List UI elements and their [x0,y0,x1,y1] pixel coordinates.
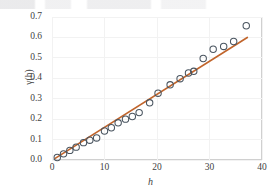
data-point [243,23,249,29]
data-point [200,55,206,61]
gridlines [52,17,262,160]
semivariogram-chart: 0.00.10.20.30.40.50.60.7 010203040 γ(h) … [0,0,275,195]
data-point [115,120,121,126]
x-tick-label-3: 30 [195,163,225,173]
y-tick-label-6: 0.6 [8,32,42,42]
data-point [108,125,114,131]
x-tick-label-1: 10 [90,163,120,173]
data-point [146,100,152,106]
trendline [55,37,247,158]
data-point [93,135,99,141]
x-axis-title: h [0,176,275,187]
y-tick-label-2: 0.2 [8,114,42,124]
data-point [220,43,226,49]
x-tick-label-0: 0 [37,163,67,173]
data-point [210,46,216,52]
y-axis-title: γ(h) [24,55,34,99]
y-tick-label-1: 0.1 [8,135,42,145]
data-point [87,137,93,143]
x-tick-label-4: 40 [247,163,275,173]
data-point [230,38,236,44]
x-tick-label-2: 20 [142,163,172,173]
y-tick-label-7: 0.7 [8,12,42,22]
data-point [136,109,142,115]
